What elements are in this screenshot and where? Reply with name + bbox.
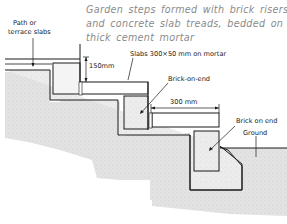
label-tread-depth: 300 mm	[170, 98, 198, 106]
tread-slab-2	[152, 113, 219, 127]
slabs-leader	[128, 58, 133, 80]
caption-line-1: Garden steps formed with brick risers	[86, 3, 286, 17]
label-brick-on-end-lower: Brick on end	[236, 117, 277, 125]
label-terrace-slabs: terrace slabs	[8, 28, 51, 36]
caption-line-2: and concrete slab treads, bedded on	[86, 17, 286, 31]
label-ground: Ground	[243, 129, 267, 137]
diagram-caption: Garden steps formed with brick risers an…	[86, 3, 286, 45]
brick-middle	[124, 96, 148, 129]
tread-slab-1	[81, 82, 148, 94]
mortar-joint-1	[79, 82, 82, 95]
brick-upper	[53, 63, 80, 94]
caption-line-3: thick cement mortar	[86, 31, 286, 45]
label-path-or: Path or	[13, 19, 36, 27]
label-slabs-spec: Slabs 300×50 mm on mortar	[130, 50, 226, 58]
label-brick-on-end-upper: Brick-on-end	[168, 75, 210, 83]
mortar-joint-2	[149, 113, 152, 128]
label-riser-height: 150mm	[89, 62, 114, 70]
brick-lower	[194, 131, 219, 171]
